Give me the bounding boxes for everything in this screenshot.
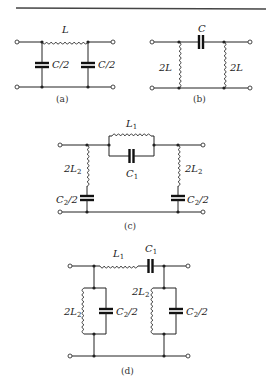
label-C2-half-right: C2/2 — [187, 194, 209, 207]
caption-a: (a) — [56, 94, 68, 104]
inductor-L — [42, 42, 88, 44]
label-C-half-right: C/2 — [98, 59, 115, 70]
label-2L2-right: 2L2 — [184, 163, 202, 176]
caption-d: (d) — [121, 366, 134, 376]
label-C1: C1 — [126, 168, 138, 181]
label-2L2-left: 2L2 — [63, 163, 81, 176]
panel-b: C 2L 2L (b) — [150, 23, 252, 104]
label-C2-half-left: C2/2 — [116, 306, 138, 319]
label-L1: L1 — [112, 248, 124, 261]
panel-c: L1 C1 2L2 C2/2 2L2 C2/2 (c) — [56, 118, 209, 231]
caption-c: (c) — [124, 221, 136, 231]
label-C2-half-left: C2/2 — [56, 194, 78, 207]
label-C: C — [198, 23, 206, 34]
label-2L2-left: 2L2 — [63, 306, 81, 319]
filter-circuits-figure: L C/2 C/2 (a) C 2L 2L (b) — [0, 0, 266, 388]
label-L1: L1 — [125, 118, 137, 131]
label-L: L — [61, 24, 69, 35]
label-2L-left: 2L — [158, 62, 172, 73]
terminal — [111, 40, 115, 44]
label-2L-right: 2L — [229, 62, 243, 73]
top-rule — [16, 8, 266, 9]
panel-d: L1 C1 2L2 C2/2 2L2 C2/2 (d) — [63, 243, 208, 376]
terminal — [15, 40, 19, 44]
caption-b: (b) — [193, 94, 206, 104]
label-2L2-right: 2L2 — [131, 286, 149, 299]
label-C2-half-right: C2/2 — [186, 306, 208, 319]
label-C-half-left: C/2 — [52, 59, 69, 70]
panel-a: L C/2 C/2 (a) — [15, 24, 115, 104]
terminal — [15, 85, 19, 89]
terminal — [111, 85, 115, 89]
label-C1: C1 — [145, 243, 157, 256]
